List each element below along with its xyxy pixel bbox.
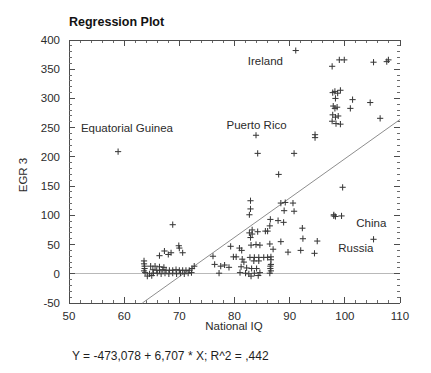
x-tick-label: 90 [283,310,296,322]
y-tick-label: 150 [41,180,60,192]
y-tick-label: 400 [41,34,60,46]
annotation-label: Puerto Rico [227,119,287,131]
y-tick-label: 0 [54,268,60,280]
x-tick-label: 50 [63,310,76,322]
annotation-label: Russia [338,242,374,254]
x-tick-label: 60 [118,310,131,322]
y-tick-label: 250 [41,122,60,134]
annotation-label: China [356,217,387,229]
y-tick-label: -50 [43,297,60,309]
plot-svg: Regression Plot -50050100150200250300350… [0,0,431,373]
y-tick-label: 300 [41,92,60,104]
y-tick-label: 50 [47,239,60,251]
x-tick-label: 100 [335,310,354,322]
y-tick-label: 350 [41,63,60,75]
y-tick-label: 100 [41,209,60,221]
regression-plot-figure: Regression Plot -50050100150200250300350… [0,0,431,373]
x-tick-label: 70 [173,310,186,322]
annotation-label: Equatorial Guinea [81,122,174,134]
annotation-label: Ireland [248,55,283,67]
x-tick-label: 110 [391,310,409,322]
y-tick-label: 200 [41,151,60,163]
y-axis-title: EGR 3 [17,158,29,193]
regression-equation: Y = -473,078 + 6,707 * X; R^2 = ,442 [72,349,269,363]
page-title: Regression Plot [69,15,165,29]
x-axis-title: National IQ [205,320,263,332]
